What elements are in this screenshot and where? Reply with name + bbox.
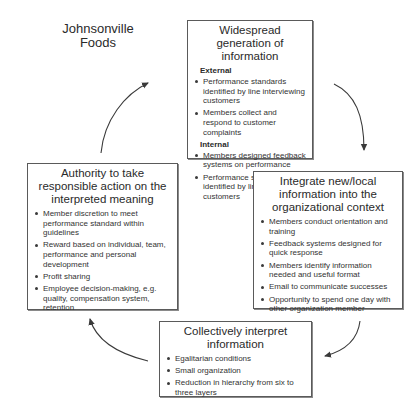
- list-item-text: Member discretion to meet performance st…: [43, 209, 144, 237]
- box-title: Authority to take responsible action on …: [34, 167, 171, 206]
- bullet-list-external: Performance standards identified by line…: [194, 77, 306, 137]
- list-item: Employee decision-making, e.g. quality, …: [34, 284, 171, 313]
- list-item: Opportunity to spend one day with other …: [260, 295, 396, 314]
- list-item: Member discretion to meet performance st…: [34, 209, 171, 238]
- list-item-text: Members collect and respond to customer …: [203, 108, 277, 136]
- list-item-text: Email to communicate successes: [269, 282, 387, 291]
- bullet-icon: [195, 176, 198, 179]
- list-item: Egalitarian conditions: [166, 354, 305, 364]
- list-item-text: Opportunity to spend one day with other …: [269, 295, 390, 314]
- box-integrate-information: Integrate new/local information into the…: [253, 171, 403, 309]
- list-item-text: Members designed feedback systems on per…: [203, 151, 306, 170]
- bullet-icon: [195, 154, 198, 157]
- list-item-text: Performance standards identified by line…: [203, 77, 305, 105]
- section-label-internal: Internal: [200, 140, 306, 150]
- list-item-text: Employee decision-making, e.g. quality, …: [43, 284, 156, 312]
- list-item: Email to communicate successes: [260, 282, 396, 292]
- bullet-list: Member discretion to meet performance st…: [34, 209, 171, 313]
- list-item-text: Members conduct orientation and training: [269, 217, 388, 236]
- bullet-icon: [167, 357, 170, 360]
- arrow-top-to-right-icon: [334, 84, 364, 150]
- list-item-text: Feedback systems designed for quick resp…: [269, 239, 382, 258]
- box-collectively-interpret: Collectively interpret information Egali…: [159, 321, 312, 397]
- list-item: Reduction in hierarchy from six to three…: [166, 378, 305, 397]
- bullet-icon: [261, 242, 264, 245]
- arrow-right-to-bottom-icon: [325, 321, 360, 356]
- bullet-icon: [167, 369, 170, 372]
- diagram-title-line-1: Johnsonville: [58, 22, 138, 36]
- list-item: Profit sharing: [34, 272, 171, 282]
- diagram-title: Johnsonville Foods: [58, 22, 138, 50]
- box-authority-to-act: Authority to take responsible action on …: [27, 163, 178, 310]
- list-item: Reward based on individual, team, perfor…: [34, 240, 171, 269]
- bullet-icon: [195, 112, 198, 115]
- bullet-icon: [261, 286, 264, 289]
- box-title: Collectively interpret information: [166, 325, 305, 351]
- list-item-text: Small organization: [175, 366, 241, 375]
- bullet-icon: [35, 212, 38, 215]
- bullet-icon: [195, 80, 198, 83]
- list-item-text: Egalitarian conditions: [175, 354, 251, 363]
- list-item-text: Members identify information needed and …: [269, 261, 372, 280]
- bullet-icon: [261, 298, 264, 301]
- arrow-left-to-top-icon: [101, 83, 148, 153]
- list-item: Members identify information needed and …: [260, 261, 396, 280]
- bullet-icon: [167, 382, 170, 385]
- box-widespread-generation: Widespread generation of information Ext…: [187, 20, 313, 159]
- list-item: Feedback systems designed for quick resp…: [260, 239, 396, 258]
- bullet-list: Egalitarian conditions Small organizatio…: [166, 354, 305, 398]
- bullet-icon: [35, 275, 38, 278]
- list-item: Small organization: [166, 366, 305, 376]
- list-item: Members designed feedback systems on per…: [194, 151, 306, 170]
- arrow-bottom-to-left-icon: [90, 319, 148, 361]
- box-title: Widespread generation of information: [194, 24, 306, 63]
- box-title: Integrate new/local information into the…: [260, 175, 396, 214]
- bullet-icon: [35, 287, 38, 290]
- list-item: Members collect and respond to customer …: [194, 108, 306, 137]
- bullet-icon: [261, 264, 264, 267]
- list-item-text: Reduction in hierarchy from six to three…: [175, 378, 294, 397]
- diagram-title-line-2: Foods: [58, 36, 138, 50]
- list-item: Members conduct orientation and training: [260, 217, 396, 236]
- bullet-icon: [261, 220, 264, 223]
- bullet-list: Members conduct orientation and training…: [260, 217, 396, 314]
- bullet-icon: [35, 244, 38, 247]
- section-label-external: External: [200, 66, 306, 76]
- list-item-text: Reward based on individual, team, perfor…: [43, 240, 166, 268]
- list-item: Performance standards identified by line…: [194, 77, 306, 106]
- list-item-text: Profit sharing: [43, 272, 90, 281]
